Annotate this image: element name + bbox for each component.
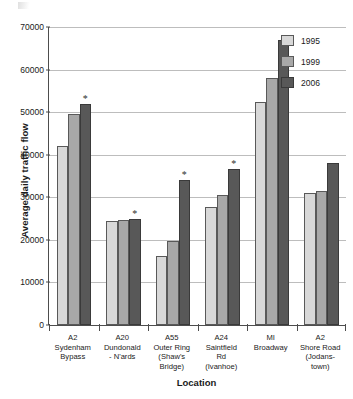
significance-asterisk: * — [182, 170, 187, 180]
legend-label: 1999 — [301, 57, 320, 67]
x-axis-category-label: A2Shore Road(Jodans-town) — [292, 333, 350, 371]
gridline-30000 — [49, 197, 346, 198]
y-tick-label-60000: 60000 — [20, 65, 44, 75]
x-axis-label-line: A2 — [292, 333, 350, 343]
legend-swatch-icon — [281, 56, 294, 67]
y-tick-label-30000: 30000 — [20, 192, 44, 202]
y-tick-label-50000: 50000 — [20, 107, 44, 117]
legend-swatch-icon — [281, 35, 294, 46]
significance-asterisk: * — [83, 94, 88, 104]
legend-item-1999: 1999 — [281, 51, 347, 72]
y-tick-mark-30000 — [46, 197, 50, 198]
bar-1995-1 — [106, 221, 118, 325]
x-tick-mark — [297, 324, 298, 331]
gridline-20000 — [49, 240, 346, 241]
y-tick-mark-70000 — [46, 27, 50, 28]
chart-legend: 199519992006 — [281, 30, 347, 93]
bar-1999-0 — [68, 114, 80, 325]
x-axis-label-line: (Jodans- — [292, 352, 350, 362]
y-tick-label-70000: 70000 — [20, 22, 44, 32]
x-tick-mark — [99, 324, 100, 331]
y-tick-mark-50000 — [46, 112, 50, 113]
bar-group-bars: * — [205, 27, 240, 325]
x-tick-mark — [49, 324, 50, 331]
bar-1999-4 — [266, 78, 278, 325]
x-tick-mark — [148, 324, 149, 331]
scan-artifact — [18, 2, 34, 9]
legend-item-1995: 1995 — [281, 30, 347, 51]
bar-group: * — [106, 27, 141, 325]
x-axis-title: Location — [48, 377, 345, 388]
x-tick-mark — [247, 324, 248, 331]
y-tick-mark-20000 — [46, 239, 50, 240]
x-axis-label-line: Shore Road — [292, 343, 350, 353]
bar-1999-3 — [217, 195, 229, 325]
bar-1999-2 — [167, 241, 179, 325]
bar-group: * — [57, 27, 92, 325]
significance-asterisk: * — [231, 159, 236, 169]
x-tick-mark — [345, 324, 346, 331]
bar-1999-1 — [118, 220, 130, 325]
bar-1995-2 — [156, 256, 168, 325]
bar-2006-5 — [327, 163, 339, 325]
bar-2006-0: * — [80, 104, 92, 325]
y-tick-mark-10000 — [46, 282, 50, 283]
y-tick-label-20000: 20000 — [20, 235, 44, 245]
bar-group-bars: * — [156, 27, 191, 325]
significance-asterisk: * — [132, 209, 137, 219]
legend-item-2006: 2006 — [281, 72, 347, 93]
bar-group-bars: * — [57, 27, 92, 325]
bar-group: * — [205, 27, 240, 325]
legend-label: 2006 — [301, 78, 320, 88]
y-tick-mark-40000 — [46, 154, 50, 155]
gridline-70000 — [49, 27, 346, 28]
bar-chart-figure: Average daily traffic flow 0100002000030… — [0, 0, 353, 399]
x-axis-label-line: Rd — [193, 352, 251, 362]
gridline-10000 — [49, 282, 346, 283]
x-tick-mark — [198, 324, 199, 331]
x-axis-label-line: town) — [292, 362, 350, 372]
bar-group-bars: * — [106, 27, 141, 325]
bar-1995-5 — [304, 193, 316, 325]
bar-1995-3 — [205, 207, 217, 325]
legend-swatch-icon — [281, 77, 294, 88]
y-tick-mark-60000 — [46, 69, 50, 70]
y-axis-title: Average daily traffic flow — [19, 71, 30, 291]
gridline-50000 — [49, 112, 346, 113]
bar-2006-1: * — [129, 219, 141, 325]
bar-2006-3: * — [228, 169, 240, 325]
x-axis-label-line: (Ivanhoe) — [193, 362, 251, 372]
y-tick-label-40000: 40000 — [20, 150, 44, 160]
legend-label: 1995 — [301, 36, 320, 46]
gridline-40000 — [49, 155, 346, 156]
y-tick-label-10000: 10000 — [20, 277, 44, 287]
y-tick-label-0: 0 — [39, 320, 44, 330]
bar-1995-4 — [255, 102, 267, 326]
bar-2006-2: * — [179, 180, 191, 325]
bar-group: * — [156, 27, 191, 325]
bar-1999-5 — [316, 191, 328, 325]
bar-1995-0 — [57, 146, 69, 325]
